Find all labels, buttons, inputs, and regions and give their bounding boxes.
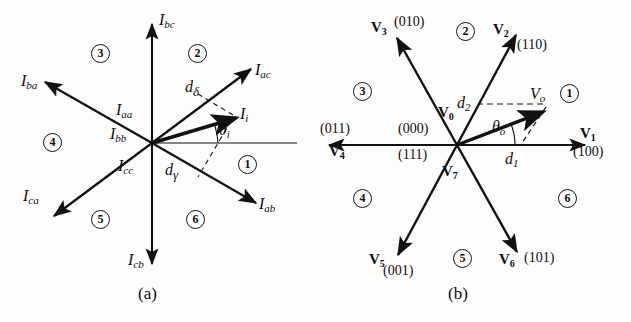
arrow-Iba <box>45 82 152 143</box>
label-state-000: (000) <box>398 122 428 136</box>
label-Iac: Iac <box>255 62 271 80</box>
sector-1-marker-b: 1 <box>560 84 579 103</box>
sector-3-marker-b: 3 <box>353 82 372 101</box>
label-V7-zero-vector: V7 <box>442 164 458 181</box>
sector-3-marker-a: 3 <box>91 44 110 63</box>
label-Icc-zero-vector: Icc <box>118 158 133 176</box>
angle-arc-theta-o <box>511 124 515 145</box>
sector-2-marker-b: 2 <box>456 22 475 41</box>
label-state-100: (100) <box>573 145 603 159</box>
sector-4-marker-a: 4 <box>43 133 62 152</box>
label-V0-zero-vector: V0 <box>438 105 454 122</box>
panel-a-vector-drawing <box>0 0 315 322</box>
label-state-111: (111) <box>398 148 427 162</box>
caption-panel-a: (a) <box>138 285 157 302</box>
label-state-010: (010) <box>394 15 424 29</box>
sector-6-marker-a: 6 <box>186 210 205 229</box>
label-state-011: (011) <box>320 122 350 136</box>
label-theta-i: θi <box>219 122 230 140</box>
label-V3: V3 <box>371 20 387 37</box>
label-Iaa-zero-vector: Iaa <box>116 102 132 120</box>
label-Icb: Icb <box>128 252 144 270</box>
sector-1-marker-a: 1 <box>238 155 257 174</box>
sector-5-marker-b: 5 <box>453 249 472 268</box>
panel-a-current-space-vectors: Ibc Iac Ii Iab Icb Ica Iba Iaa Ibb Icc d… <box>0 0 315 322</box>
label-d-delta: dδ <box>185 79 199 98</box>
label-Iab: Iab <box>259 196 275 214</box>
label-Iba: Iba <box>21 73 37 91</box>
label-Ica: Ica <box>23 188 39 206</box>
figure-two-panel-space-vector-diagram: Ibc Iac Ii Iab Icb Ica Iba Iaa Ibb Icc d… <box>0 0 631 322</box>
label-state-001: (001) <box>383 264 413 278</box>
label-V1: V1 <box>580 126 596 143</box>
label-Ii: Ii <box>240 106 248 124</box>
sector-2-marker-a: 2 <box>188 44 207 63</box>
sector-5-marker-a: 5 <box>91 210 110 229</box>
label-Vo: Vo <box>530 86 545 104</box>
arrow-V2 <box>457 35 516 145</box>
label-state-101: (101) <box>524 251 554 265</box>
label-V2: V2 <box>493 22 509 39</box>
arrow-Iac <box>152 69 251 143</box>
panel-b-voltage-space-vectors: V1 (100) V2 (110) V3 (010) V4 (011) V5 (… <box>315 0 631 322</box>
label-d-gamma: dγ <box>165 162 178 181</box>
sector-6-marker-b: 6 <box>558 189 577 208</box>
caption-panel-b: (b) <box>448 285 468 302</box>
label-Ibb-zero-vector: Ibb <box>110 126 126 144</box>
sector-4-marker-b: 4 <box>353 189 372 208</box>
label-theta-o: θo <box>492 119 505 137</box>
label-d1: d1 <box>505 151 519 169</box>
label-Ibc: Ibc <box>159 12 175 30</box>
label-state-110: (110) <box>517 38 547 52</box>
label-d2: d2 <box>457 95 471 113</box>
panel-b-vector-drawing <box>315 0 631 322</box>
label-V4: V4 <box>329 144 345 161</box>
angle-arc-theta-i <box>215 126 218 143</box>
label-V6: V6 <box>499 252 515 269</box>
arrow-Ica <box>54 143 152 216</box>
